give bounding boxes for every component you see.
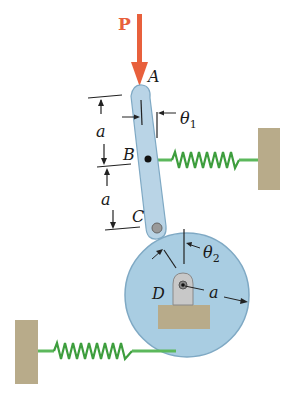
point-label-c: C	[132, 207, 144, 226]
force-arrow-p	[131, 14, 148, 86]
point-label-b: B	[122, 145, 135, 164]
point-b-dot	[145, 156, 152, 163]
dimension-a-upper: a	[96, 122, 106, 141]
dimension-a-lower: a	[101, 190, 111, 209]
dimension-a-radius: a	[209, 283, 219, 302]
right-wall	[258, 128, 280, 190]
pivot-base	[158, 305, 210, 329]
point-label-a: A	[146, 67, 160, 86]
theta1-label: θ1	[180, 109, 197, 131]
mechanism-diagram: P A θ1 a a B C θ2	[0, 0, 286, 396]
point-label-d: D	[151, 284, 165, 303]
spring-b	[152, 152, 258, 168]
left-wall	[15, 320, 38, 384]
force-label: P	[118, 14, 131, 34]
pin-c	[152, 223, 162, 233]
